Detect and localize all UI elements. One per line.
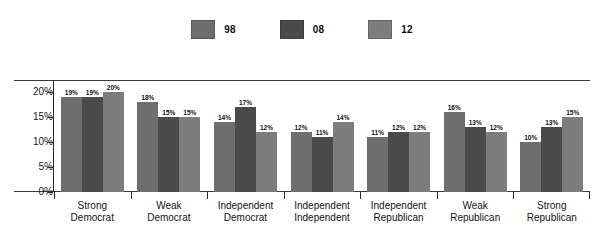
bar-08-6: 13% xyxy=(541,127,562,192)
x-axis-tick-cell xyxy=(360,192,437,199)
bar-value-label: 12% xyxy=(260,125,273,133)
legend-entry-12: 12 xyxy=(368,20,413,39)
x-axis-category-label: IndependentDemocrat xyxy=(207,200,284,224)
x-axis-category-label-line: Democrat xyxy=(54,212,131,224)
bar-value-label: 14% xyxy=(218,115,231,123)
bar-value-label: 14% xyxy=(337,115,350,123)
bar-value-label: 17% xyxy=(239,100,252,108)
x-axis-category-label: WeakRepublican xyxy=(437,200,514,224)
y-axis-tick-mark xyxy=(47,192,53,193)
y-axis-tick-mark xyxy=(47,167,53,168)
x-axis-category-label-line: Independent xyxy=(284,200,361,212)
x-axis-category-label-line: Republican xyxy=(513,212,590,224)
x-axis-tick-cell xyxy=(207,192,284,199)
x-axis-category-label-line: Strong xyxy=(54,200,131,212)
bar-12-0: 20% xyxy=(103,92,124,192)
bar-08-2: 17% xyxy=(235,107,256,192)
bar-98-4: 11% xyxy=(367,137,388,192)
legend-label-98: 98 xyxy=(224,25,236,35)
x-axis-tick-cell xyxy=(437,192,514,199)
x-axis-category-label-line: Independent xyxy=(207,200,284,212)
bar-group: 11%12%12% xyxy=(360,80,437,192)
bar-12-4: 12% xyxy=(409,132,430,192)
y-axis-tick-mark xyxy=(47,92,53,93)
legend-swatch-08 xyxy=(280,20,304,39)
bar-value-label: 15% xyxy=(162,110,175,118)
bar-98-0: 19% xyxy=(61,97,82,192)
bar-value-label: 11% xyxy=(371,130,384,138)
bar-98-1: 18% xyxy=(137,102,158,192)
bar-value-label: 11% xyxy=(316,130,329,138)
x-axis-tick-mark xyxy=(54,192,55,199)
bar-12-5: 12% xyxy=(486,132,507,192)
x-axis-category-label-line: Strong xyxy=(513,200,590,212)
bar-98-2: 14% xyxy=(214,122,235,192)
bar-08-0: 19% xyxy=(82,97,103,192)
bar-value-label: 20% xyxy=(107,85,120,93)
chart-legend: 98 08 12 xyxy=(0,20,604,39)
x-axis-tick-cell xyxy=(54,192,131,199)
bar-12-3: 14% xyxy=(333,122,354,192)
bar-98-5: 16% xyxy=(444,112,465,192)
x-axis-tick-cell xyxy=(131,192,208,199)
x-axis-category-label-line: Weak xyxy=(437,200,514,212)
bar-group: 16%13%12% xyxy=(437,80,514,192)
x-axis-tick-mark xyxy=(360,192,361,199)
bar-08-4: 12% xyxy=(388,132,409,192)
x-axis-category-label-line: Weak xyxy=(131,200,208,212)
bar-value-label: 18% xyxy=(141,95,154,103)
bar-value-label: 13% xyxy=(545,120,558,128)
x-axis-tick-mark xyxy=(284,192,285,199)
bar-98-3: 12% xyxy=(291,132,312,192)
x-axis-category-label: IndependentIndependent xyxy=(284,200,361,224)
x-axis-category-label: StrongDemocrat xyxy=(54,200,131,224)
bar-group: 14%17%12% xyxy=(207,80,284,192)
legend-label-12: 12 xyxy=(401,25,413,35)
x-axis-category-label-line: Democrat xyxy=(131,212,208,224)
x-axis-category-label: IndependentRepublican xyxy=(360,200,437,224)
bar-group: 10%13%15% xyxy=(513,80,590,192)
bar-group: 19%19%20% xyxy=(54,80,131,192)
bar-value-label: 19% xyxy=(86,90,99,98)
bar-12-2: 12% xyxy=(256,132,277,192)
x-axis-category-label: StrongRepublican xyxy=(513,200,590,224)
x-axis-category-label-line: Republican xyxy=(360,212,437,224)
bar-08-1: 15% xyxy=(158,117,179,192)
legend-entry-98: 98 xyxy=(191,20,236,39)
x-axis-labels: StrongDemocratWeakDemocratIndependentDem… xyxy=(54,200,590,224)
bar-12-6: 15% xyxy=(562,117,583,192)
x-axis-tick-mark xyxy=(589,192,590,199)
bar-group: 18%15%15% xyxy=(131,80,208,192)
x-axis-category-label-line: Independent xyxy=(360,200,437,212)
bar-value-label: 16% xyxy=(448,105,461,113)
bar-chart: 98 08 12 0%5%10%15%20% 19%19%20%18%15%15… xyxy=(0,0,604,236)
bar-08-3: 11% xyxy=(312,137,333,192)
plot-area: 19%19%20%18%15%15%14%17%12%12%11%14%11%1… xyxy=(54,80,590,192)
bar-value-label: 12% xyxy=(392,125,405,133)
bar-value-label: 15% xyxy=(183,110,196,118)
x-axis-category-label: WeakDemocrat xyxy=(131,200,208,224)
legend-swatch-98 xyxy=(191,20,215,39)
x-axis-tick-mark xyxy=(437,192,438,199)
bar-08-5: 13% xyxy=(465,127,486,192)
bar-value-label: 19% xyxy=(65,90,78,98)
bar-98-6: 10% xyxy=(520,142,541,192)
legend-label-08: 08 xyxy=(313,25,325,35)
x-axis-category-label-line: Independent xyxy=(284,212,361,224)
bar-value-label: 13% xyxy=(469,120,482,128)
y-axis-tick-mark xyxy=(47,142,53,143)
bar-value-label: 12% xyxy=(295,125,308,133)
legend-swatch-12 xyxy=(368,20,392,39)
x-axis-category-label-line: Republican xyxy=(437,212,514,224)
y-axis-tick-mark xyxy=(47,117,53,118)
bar-value-label: 12% xyxy=(490,125,503,133)
x-axis-ticks xyxy=(54,192,590,199)
bar-value-label: 10% xyxy=(524,135,537,143)
x-axis-tick-cell xyxy=(284,192,361,199)
bar-12-1: 15% xyxy=(179,117,200,192)
x-axis-category-label-line: Democrat xyxy=(207,212,284,224)
x-axis-tick-mark xyxy=(207,192,208,199)
bar-value-label: 15% xyxy=(566,110,579,118)
legend-entry-08: 08 xyxy=(280,20,325,39)
bar-value-label: 12% xyxy=(413,125,426,133)
